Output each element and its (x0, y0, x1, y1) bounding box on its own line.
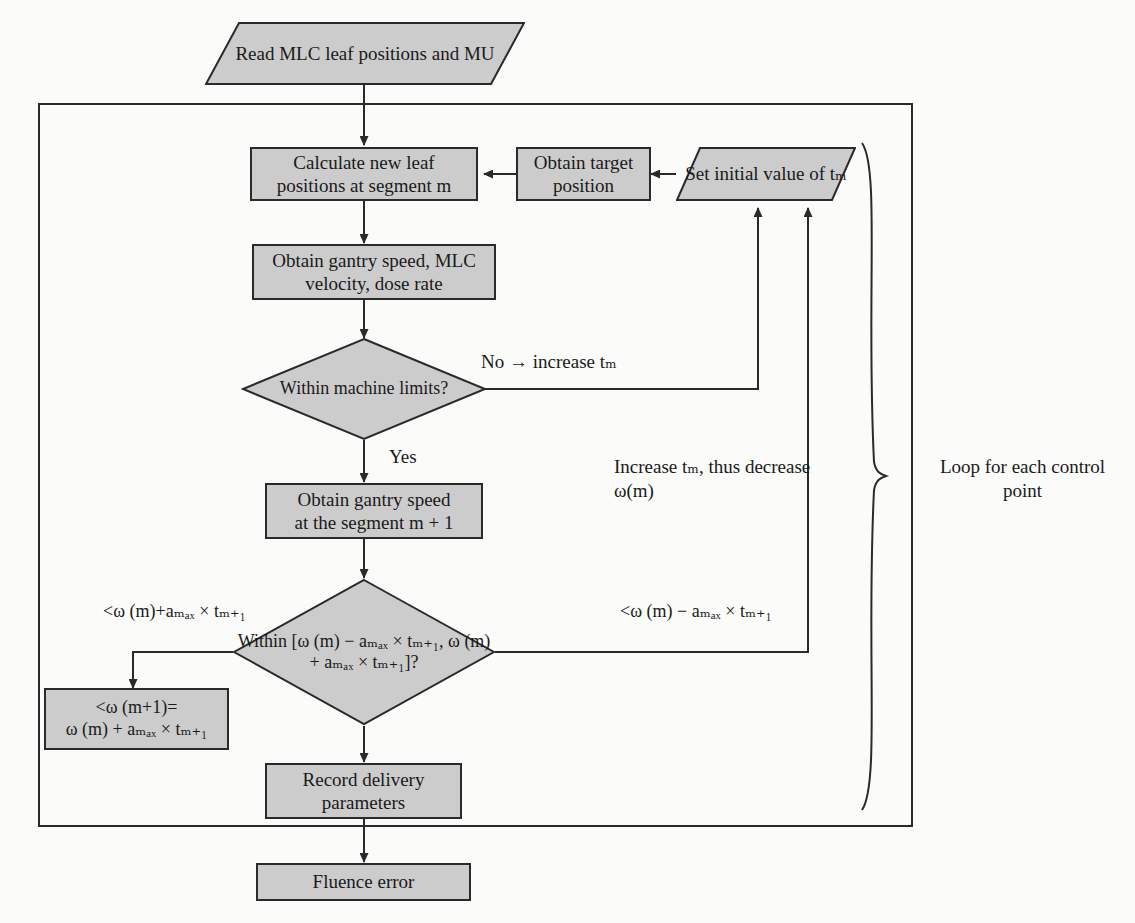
node-set-initial-value-label: Set initial value of tₘ (677, 162, 855, 185)
node-within-machine-limits[interactable]: Within machine limits? (241, 337, 487, 441)
loop-brace (862, 143, 886, 810)
node-obtain-target-position-label: Obtain target position (534, 151, 633, 197)
edge-label-left-branch: <ω (m)+aₘₐₓ × tₘ₊₁ (103, 600, 246, 623)
node-within-acceleration-range[interactable]: Within [ω (m) − aₘₐₓ × tₘ₊₁, ω (m) + aₘₐ… (232, 578, 496, 726)
edge-label-increase-tm: Increase tₘ, thus decrease ω(m) (614, 455, 844, 503)
node-fluence-error-label: Fluence error (313, 870, 415, 893)
node-within-acceleration-range-label: Within [ω (m) − aₘₐₓ × tₘ₊₁, ω (m) + aₘₐ… (232, 578, 496, 726)
node-fluence-error[interactable]: Fluence error (256, 863, 471, 901)
node-omega-assignment[interactable]: <ω (m+1)= ω (m) + aₘₐₓ × tₘ₊₁ (44, 688, 229, 750)
node-read-input-label: Read MLC leaf positions and MU (227, 42, 502, 65)
node-obtain-gantry-speed[interactable]: Obtain gantry speed, MLC velocity, dose … (252, 244, 496, 300)
node-omega-assignment-label: <ω (m+1)= ω (m) + aₘₐₓ × tₘ₊₁ (66, 697, 208, 741)
node-within-machine-limits-label: Within machine limits? (241, 337, 487, 441)
edge-label-right-branch: <ω (m) − aₘₐₓ × tₘ₊₁ (620, 600, 772, 623)
node-calculate-leaf-positions-label: Calculate new leaf positions at segment … (277, 151, 452, 197)
node-set-initial-value[interactable]: Set initial value of tₘ (676, 147, 856, 201)
node-obtain-target-position[interactable]: Obtain target position (516, 147, 651, 201)
node-calculate-leaf-positions[interactable]: Calculate new leaf positions at segment … (250, 147, 478, 201)
flowchart-canvas: Read MLC leaf positions and MU Calculate… (0, 0, 1135, 923)
edge-label-yes: Yes (389, 445, 417, 469)
node-read-input[interactable]: Read MLC leaf positions and MU (205, 22, 525, 85)
node-obtain-gantry-speed-next-label: Obtain gantry speed at the segment m + 1 (295, 488, 454, 534)
edge-label-no-increase: No → increase tₘ (481, 350, 617, 374)
node-record-delivery-label: Record delivery parameters (303, 768, 425, 814)
node-record-delivery[interactable]: Record delivery parameters (265, 763, 462, 819)
node-obtain-gantry-speed-label: Obtain gantry speed, MLC velocity, dose … (272, 249, 476, 295)
loop-note: Loop for each control point (920, 455, 1125, 503)
node-obtain-gantry-speed-next[interactable]: Obtain gantry speed at the segment m + 1 (265, 483, 483, 539)
